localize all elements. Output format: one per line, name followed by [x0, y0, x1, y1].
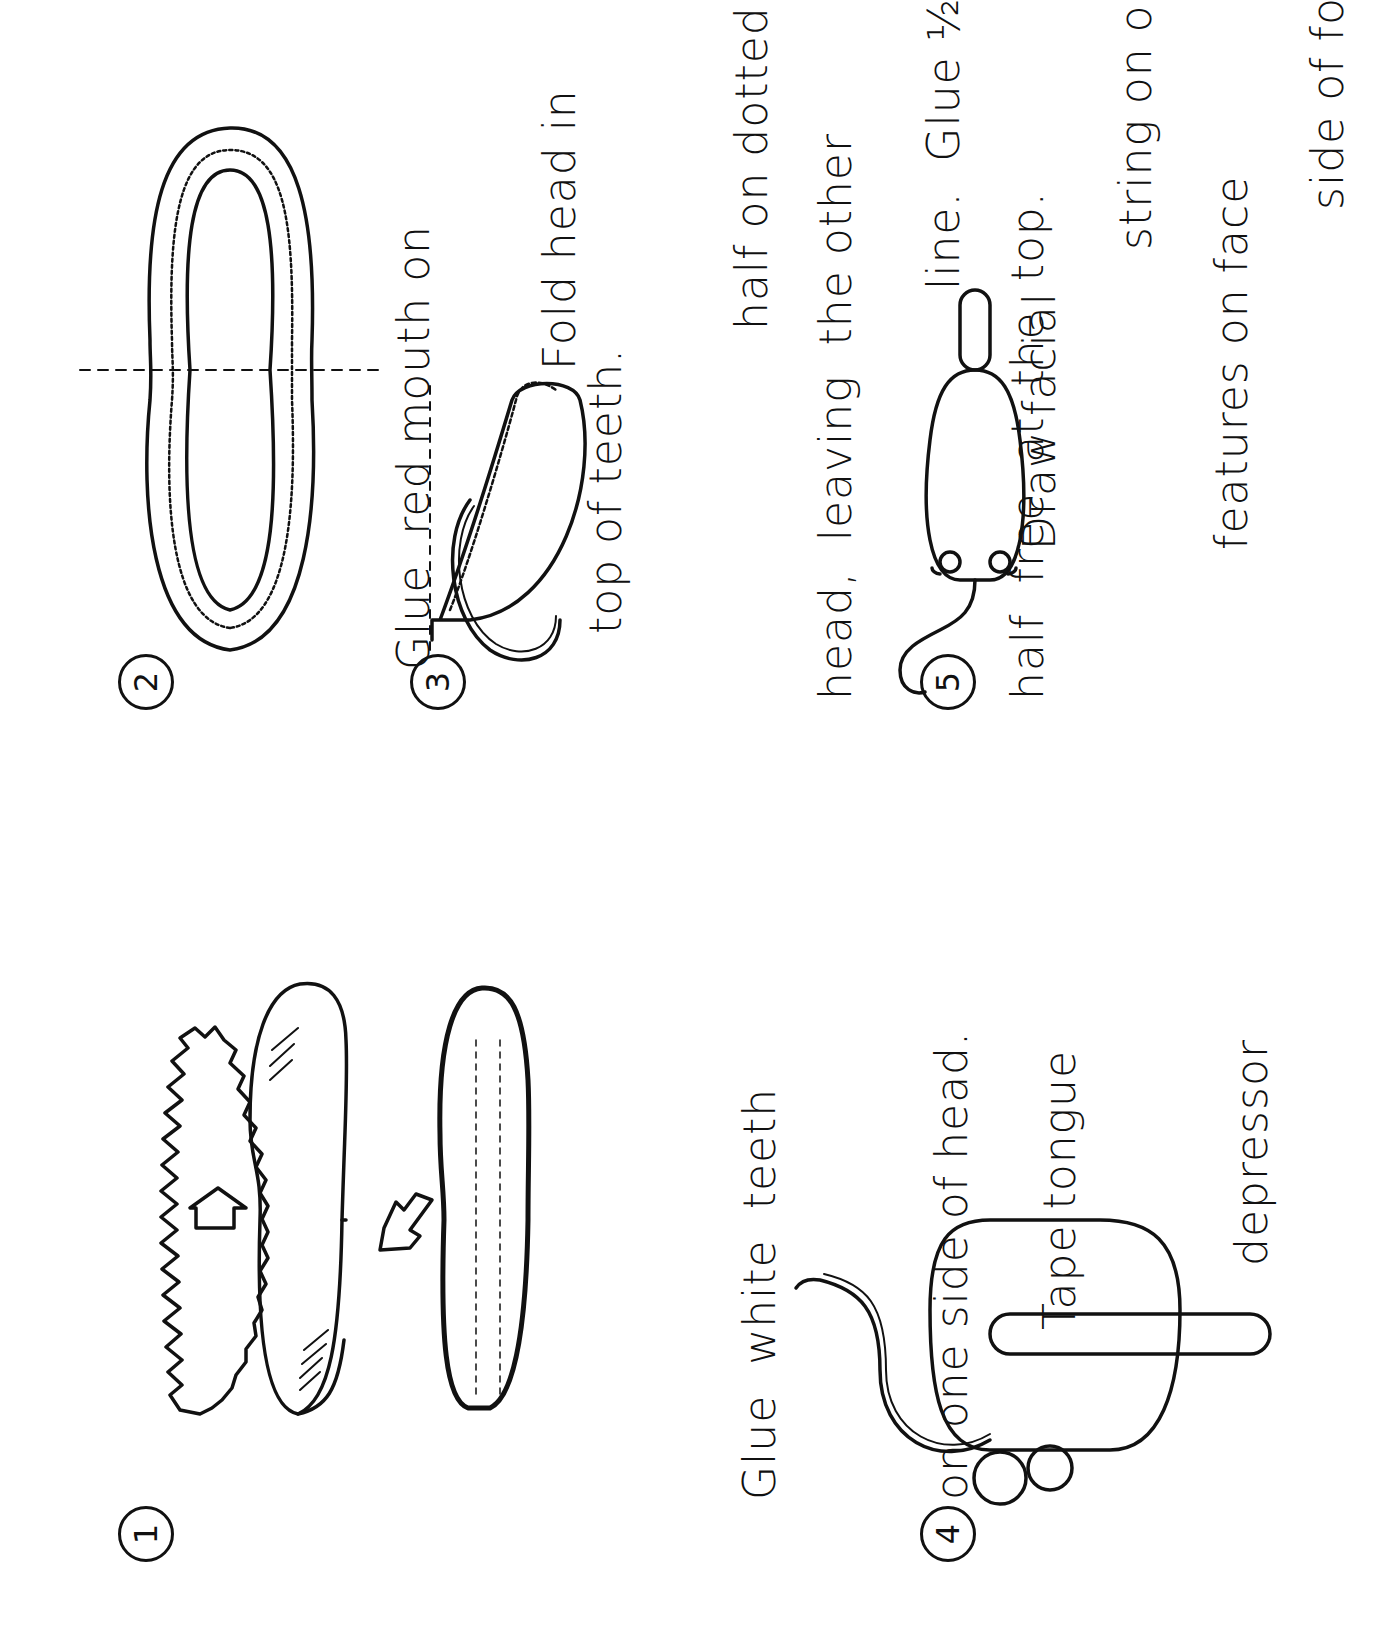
- eye-icon: [940, 552, 960, 572]
- string-icon: [900, 580, 975, 693]
- instruction-sheet: 1 Glue white teeth on one side of head. …: [0, 0, 1388, 1640]
- step-5-text: Draw facial features on face and glue on…: [880, 176, 1388, 550]
